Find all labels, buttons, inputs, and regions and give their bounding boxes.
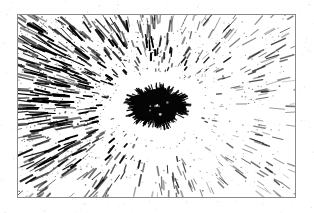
plate-interior: [18, 15, 295, 197]
page-root: [0, 0, 314, 213]
radial-burst-figure: [18, 15, 295, 197]
framed-figure-plate: [17, 14, 296, 198]
